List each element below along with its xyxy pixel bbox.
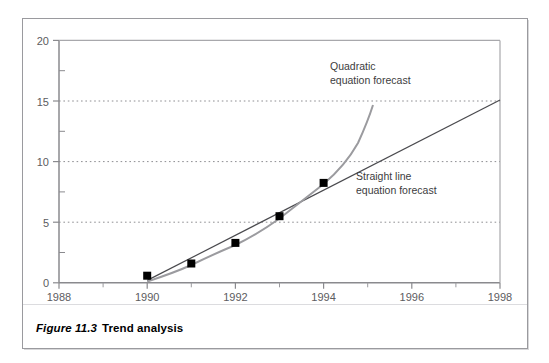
straight-line-label-line1: Straight line — [356, 170, 412, 182]
figure-caption: Figure 11.3Trend analysis — [36, 322, 183, 334]
straight-line-label: Straight line equation forecast — [356, 170, 437, 196]
data-point-1993 — [276, 212, 284, 220]
straight-line-forecast-series — [147, 100, 500, 280]
quadratic-label: Quadratic equation forecast — [330, 60, 411, 86]
data-point-1991 — [187, 260, 195, 268]
data-point-1990 — [143, 272, 151, 280]
caption-divider — [23, 304, 527, 305]
x-axis-tick-labels: 1988 1990 1992 1994 1996 1998 — [47, 291, 512, 303]
x-label-1998: 1998 — [488, 291, 512, 303]
data-point-1992 — [231, 239, 239, 247]
y-label-20: 20 — [37, 35, 49, 47]
data-point-markers — [143, 179, 327, 280]
y-label-15: 15 — [37, 96, 49, 108]
y-axis-major-ticks — [53, 40, 59, 282]
x-label-1990: 1990 — [135, 291, 159, 303]
quadratic-label-line2: equation forecast — [330, 74, 411, 86]
x-label-1992: 1992 — [223, 291, 247, 303]
x-label-1996: 1996 — [400, 291, 424, 303]
straight-line-label-line2: equation forecast — [356, 184, 437, 196]
data-point-1994 — [320, 179, 328, 187]
quadratic-forecast-series — [147, 105, 373, 282]
y-label-10: 10 — [37, 156, 49, 168]
y-label-0: 0 — [43, 277, 49, 289]
gridlines — [59, 101, 500, 222]
quadratic-label-line1: Quadratic — [330, 60, 376, 72]
x-label-1988: 1988 — [47, 291, 71, 303]
y-label-5: 5 — [43, 217, 49, 229]
figure-container: 0 5 10 15 20 1988 1990 1992 — [0, 0, 549, 363]
figure-caption-text: Trend analysis — [102, 322, 183, 334]
figure-number: Figure 11.3 — [36, 322, 97, 334]
y-axis-tick-labels: 0 5 10 15 20 — [37, 35, 49, 289]
trend-analysis-chart: 0 5 10 15 20 1988 1990 1992 — [0, 0, 549, 363]
x-label-1994: 1994 — [311, 291, 335, 303]
